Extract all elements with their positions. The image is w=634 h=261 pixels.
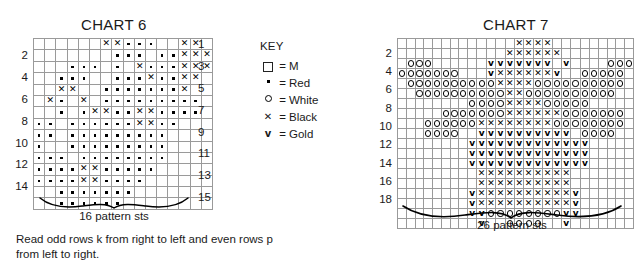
- cell-m: [552, 39, 561, 49]
- cell-red: [145, 84, 156, 95]
- cell-white: [598, 79, 607, 89]
- cell-m: [450, 39, 459, 49]
- cell-m: [424, 39, 433, 49]
- chart6-brace: [38, 196, 190, 210]
- cell-white: [459, 89, 468, 99]
- cell-m: [477, 59, 486, 69]
- cell-white: [616, 79, 625, 89]
- cell-m: [468, 49, 477, 59]
- cell-m: [168, 152, 179, 163]
- cell-black: ✕: [145, 107, 156, 118]
- cell-red: [67, 141, 78, 152]
- cell-m: [598, 49, 607, 59]
- cell-gold: ᴠ: [505, 159, 514, 169]
- row-number-label: 11: [198, 148, 210, 160]
- cell-black: ✕: [134, 107, 145, 118]
- cell-red: [157, 95, 168, 106]
- chart-row: ✕✕: [398, 89, 634, 99]
- cell-m: [34, 50, 45, 61]
- chart-row: ✕✕✕✕: [34, 107, 213, 118]
- cell-red: [157, 61, 168, 72]
- chart-row: [34, 130, 213, 141]
- row-number-label: 6: [386, 84, 392, 96]
- cell-white: [477, 79, 486, 89]
- cell-red: [101, 84, 112, 95]
- cell-m: [45, 39, 56, 50]
- cell-red: [112, 107, 123, 118]
- cell-gold: ᴠ: [496, 129, 505, 139]
- cell-white: [625, 59, 634, 69]
- cell-red: [112, 50, 123, 61]
- cell-gold: ᴠ: [533, 59, 542, 69]
- cell-red: [67, 118, 78, 129]
- cell-m: [415, 189, 424, 199]
- cell-black: ✕: [505, 169, 514, 179]
- cell-m: [580, 39, 589, 49]
- cell-red: [123, 84, 134, 95]
- cell-black: ✕: [543, 189, 552, 199]
- cell-m: [625, 209, 634, 219]
- cell-m: [625, 219, 634, 229]
- cell-m: [424, 169, 433, 179]
- cell-red: [45, 152, 56, 163]
- cell-white: [496, 99, 505, 109]
- cell-red: [78, 118, 89, 129]
- chart-row: ✕✕✕✕✕✕✕✕✕✕: [398, 169, 634, 179]
- cell-m: [598, 159, 607, 169]
- cell-red: [101, 164, 112, 175]
- cell-black: ✕: [78, 175, 89, 186]
- cell-m: [441, 49, 450, 59]
- cell-red: [78, 61, 89, 72]
- cell-m: [459, 99, 468, 109]
- cell-white: [424, 59, 433, 69]
- cell-m: [89, 50, 100, 61]
- cell-white: [589, 119, 598, 129]
- chart-row: ✕✕: [34, 95, 213, 106]
- row-number-label: 15: [198, 192, 211, 204]
- cell-m: [179, 141, 190, 152]
- cell-red: [34, 152, 45, 163]
- cell-m: [598, 139, 607, 149]
- chart-row: ✕✕✕✕✕✕: [398, 109, 634, 119]
- cell-white: [406, 59, 415, 69]
- cell-white: [415, 69, 424, 79]
- cell-white: [598, 69, 607, 79]
- cell-m: [616, 39, 625, 49]
- cell-m: [496, 39, 505, 49]
- cell-red: [78, 107, 89, 118]
- cell-white: [571, 99, 580, 109]
- cell-white: [562, 119, 571, 129]
- cell-white: [598, 129, 607, 139]
- cell-m: [607, 189, 616, 199]
- cell-m: [123, 61, 134, 72]
- cell-m: [598, 189, 607, 199]
- row-number-label: 12: [379, 139, 392, 151]
- cell-black: ✕: [101, 107, 112, 118]
- cell-m: [415, 109, 424, 119]
- cell-white: [607, 119, 616, 129]
- cell-red: [112, 152, 123, 163]
- cell-m: [67, 50, 78, 61]
- cell-m: [433, 99, 442, 109]
- cell-red: [101, 175, 112, 186]
- cell-m: [459, 149, 468, 159]
- cell-m: [486, 49, 495, 59]
- chart-row: ✕✕✕: [34, 73, 213, 84]
- cell-white: [450, 89, 459, 99]
- cell-m: [157, 39, 168, 50]
- cell-m: [580, 189, 589, 199]
- cell-m: [625, 189, 634, 199]
- cell-white: [607, 109, 616, 119]
- cell-m: [450, 149, 459, 159]
- cell-red: [123, 39, 134, 50]
- key-equals: =: [276, 111, 289, 123]
- cell-red: [157, 118, 168, 129]
- cell-m: [433, 159, 442, 169]
- cell-m: [56, 50, 67, 61]
- cell-m: [89, 73, 100, 84]
- cell-m: [616, 49, 625, 59]
- cell-black: ✕: [533, 109, 542, 119]
- cell-black: ✕: [562, 179, 571, 189]
- cell-m: [616, 169, 625, 179]
- cell-m: [441, 179, 450, 189]
